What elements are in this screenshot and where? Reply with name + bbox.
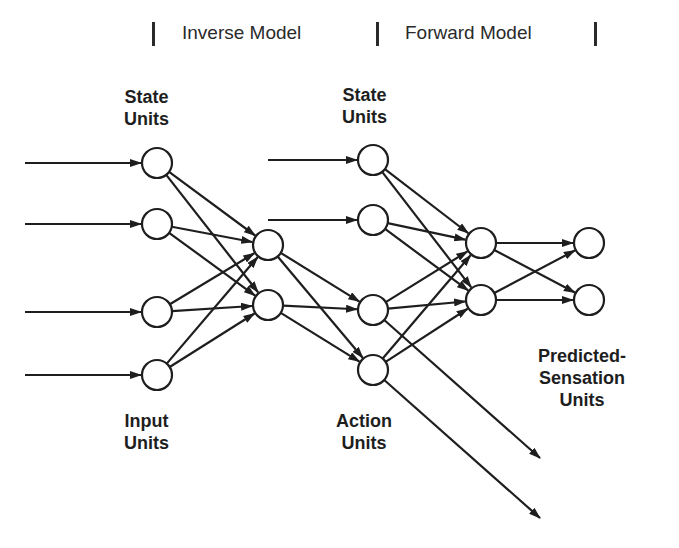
separator-right	[594, 22, 597, 46]
weight-connection	[386, 309, 468, 362]
inverse-hidden-layer-unit	[253, 230, 283, 260]
action-output-arrow	[384, 380, 540, 518]
action-units-label: Action Units	[336, 410, 392, 454]
state-action-layer-unit	[358, 145, 388, 175]
weight-connection	[281, 313, 360, 362]
label-line: Units	[336, 432, 392, 454]
inverse-hidden-layer-unit	[253, 290, 283, 320]
label-line: Input	[124, 410, 169, 432]
state-action-layer-unit	[358, 295, 388, 325]
weight-connection	[169, 233, 255, 296]
unit-nodes	[142, 145, 604, 390]
input-layer-unit	[142, 297, 172, 327]
action-output-arrow	[384, 320, 540, 458]
input-layer-unit	[142, 360, 172, 390]
weight-connection	[281, 253, 360, 302]
inverse-model-heading: Inverse Model	[182, 22, 301, 44]
predicted-sensation-layer-unit	[574, 228, 604, 258]
predicted-sensation-units-label: Predicted- Sensation Units	[538, 345, 626, 411]
connection-edges	[25, 160, 575, 518]
state-units-label-inverse: State Units	[124, 86, 169, 130]
separator-left	[152, 22, 155, 46]
weight-connection	[385, 169, 468, 233]
weight-connection	[172, 227, 253, 242]
forward-hidden-layer-unit	[466, 285, 496, 315]
input-units-label: Input Units	[124, 410, 169, 454]
label-line: Units	[124, 432, 169, 454]
label-line: Units	[538, 389, 626, 411]
label-line: Predicted-	[538, 345, 626, 367]
predicted-sensation-layer-unit	[574, 285, 604, 315]
weight-connection	[388, 223, 466, 240]
state-action-layer-unit	[358, 205, 388, 235]
weight-connection	[169, 172, 255, 236]
input-layer-unit	[142, 148, 172, 178]
forward-model-heading: Forward Model	[405, 22, 532, 44]
input-layer-unit	[142, 209, 172, 239]
label-line: Units	[124, 108, 169, 130]
weight-connection	[170, 314, 255, 367]
state-units-label-forward: State Units	[342, 84, 387, 128]
label-line: State	[124, 86, 169, 108]
weight-connection	[170, 253, 254, 304]
label-line: Units	[342, 106, 387, 128]
label-line: Sensation	[538, 367, 626, 389]
label-line: Action	[336, 410, 392, 432]
separator-middle	[376, 22, 379, 46]
network-diagram	[0, 0, 679, 548]
state-action-layer-unit	[358, 355, 388, 385]
forward-hidden-layer-unit	[466, 228, 496, 258]
label-line: State	[342, 84, 387, 106]
